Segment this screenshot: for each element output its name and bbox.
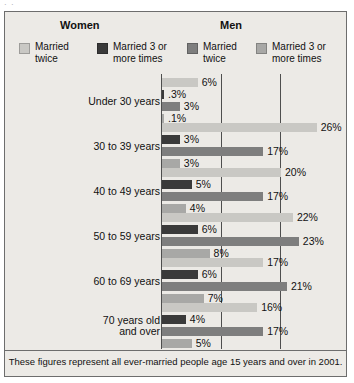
chart-bar-row: 4% <box>162 315 345 324</box>
chart-bar-value-label: 17% <box>267 190 288 202</box>
legend-group-title-men: Men <box>220 19 242 31</box>
legend-swatch-icon <box>19 43 30 54</box>
chart-footnote: These figures represent all ever-married… <box>5 356 346 368</box>
chart-bar-value-label: 22% <box>297 211 318 223</box>
chart-bar[interactable] <box>162 327 263 336</box>
chart-bar-value-label: 5% <box>196 337 211 349</box>
chart-age-group: 40 to 49 years20%5%17%4% <box>5 168 346 213</box>
chart-bar-value-label: 3% <box>184 133 199 145</box>
chart-bar[interactable] <box>162 213 293 222</box>
chart-bar-row: 17% <box>162 192 345 201</box>
chart-bar-row: 3% <box>162 135 345 144</box>
chart-category-label: 50 to 59 years <box>93 231 160 242</box>
chart-bar[interactable] <box>162 180 192 189</box>
legend-item-label: Married twice <box>35 41 69 64</box>
footnote-divider <box>5 350 346 351</box>
legend-swatch-icon <box>187 43 198 54</box>
chart-bar-row: 17% <box>162 327 345 336</box>
chart-bar-row: 7% <box>162 294 345 303</box>
legend-swatch-icon <box>97 43 108 54</box>
chart-category-label: 60 to 69 years <box>93 276 160 287</box>
legend-item-men-married-3-or-more[interactable]: Married 3 or more times <box>256 41 326 64</box>
chart-bar-row: 21% <box>162 282 345 291</box>
chart-bar-value-label: 17% <box>267 325 288 337</box>
chart-bar-row: 3% <box>162 159 345 168</box>
chart-bar-row: 26% <box>162 123 345 132</box>
chart-bar-row: 5% <box>162 339 345 348</box>
chart-bar-value-label: 6% <box>202 76 217 88</box>
chart-bar-row: 16% <box>162 303 345 312</box>
chart-bar[interactable] <box>162 225 198 234</box>
chart-bar-value-label: 17% <box>267 256 288 268</box>
chart-bar[interactable] <box>162 159 180 168</box>
chart-category-label: 40 to 49 years <box>93 186 160 197</box>
chart-bar[interactable] <box>162 123 317 132</box>
chart-bar-row: 6% <box>162 225 345 234</box>
legend-item-men-married-twice[interactable]: Married twice <box>187 41 237 64</box>
chart-bar[interactable] <box>162 102 180 111</box>
chart-age-group: 50 to 59 years22%6%23%8% <box>5 213 346 258</box>
chart-bar[interactable] <box>162 294 204 303</box>
chart-bar-value-label: 20% <box>285 166 306 178</box>
legend-item-label: Married twice <box>203 41 237 64</box>
chart-bar-value-label: 5% <box>196 178 211 190</box>
chart-bar[interactable] <box>162 282 287 291</box>
chart-bar-value-label: 4% <box>190 313 205 325</box>
chart-category-label: Under 30 years <box>88 96 160 107</box>
chart-bar[interactable] <box>162 258 263 267</box>
chart-age-group: 60 to 69 years17%6%21%7% <box>5 258 346 303</box>
chart-bar[interactable] <box>162 78 198 87</box>
chart-bar-value-label: 16% <box>261 301 282 313</box>
chart-bar-value-label: 26% <box>321 121 342 133</box>
chart-bar-value-label: 17% <box>267 145 288 157</box>
chart-category-label: 70 years old and over <box>103 315 160 337</box>
legend-item-label: Married 3 or more times <box>272 41 326 64</box>
chart-bar[interactable] <box>162 249 210 258</box>
figure-page: · · Women Men Married twice Married 3 or… <box>0 0 354 383</box>
chart-bar[interactable] <box>162 204 186 213</box>
chart-bar[interactable] <box>162 192 263 201</box>
chart-bar[interactable] <box>162 135 180 144</box>
page-artifact-text: · · <box>4 0 44 9</box>
chart-bar-value-label: 23% <box>303 235 324 247</box>
chart-age-group: 30 to 39 years26%3%17%3% <box>5 123 346 168</box>
chart-bar-row: 6% <box>162 270 345 279</box>
chart-plot-area: Under 30 years6%.3%3%.1%30 to 39 years26… <box>5 74 346 349</box>
chart-bar-row: 22% <box>162 213 345 222</box>
legend-item-label: Married 3 or more times <box>113 41 167 64</box>
chart-bar-value-label: 3% <box>184 100 199 112</box>
chart-bar-row: 20% <box>162 168 345 177</box>
chart-bar-value-label: 21% <box>291 280 312 292</box>
chart-bar-row: .3% <box>162 90 345 99</box>
chart-figure: Women Men Married twice Married 3 or mor… <box>4 11 347 377</box>
chart-bar-row: 3% <box>162 102 345 111</box>
legend-item-women-married-3-or-more[interactable]: Married 3 or more times <box>97 41 167 64</box>
legend-item-women-married-twice[interactable]: Married twice <box>19 41 69 64</box>
chart-bar[interactable] <box>162 237 299 246</box>
chart-bar-row: 6% <box>162 78 345 87</box>
chart-bar-row: 23% <box>162 237 345 246</box>
chart-bar-row: 5% <box>162 180 345 189</box>
chart-bar-value-label: 6% <box>202 268 217 280</box>
chart-bar[interactable] <box>162 339 192 348</box>
chart-bar-row: 17% <box>162 258 345 267</box>
chart-category-label: 30 to 39 years <box>93 141 160 152</box>
chart-bar[interactable] <box>162 270 198 279</box>
chart-bar-row: 17% <box>162 147 345 156</box>
chart-bar-row: 8% <box>162 249 345 258</box>
chart-bar-value-label: 6% <box>202 223 217 235</box>
chart-bar-value-label: .3% <box>168 88 186 100</box>
chart-bar[interactable] <box>162 90 164 99</box>
chart-age-group: 70 years old and over16%4%17%5% <box>5 303 346 348</box>
chart-bar[interactable] <box>162 168 281 177</box>
chart-bar-row: .1% <box>162 114 345 123</box>
chart-legend: Women Men Married twice Married 3 or mor… <box>5 12 346 74</box>
legend-swatch-icon <box>256 43 267 54</box>
chart-bar[interactable] <box>162 147 263 156</box>
legend-group-title-women: Women <box>60 19 100 31</box>
chart-age-group: Under 30 years6%.3%3%.1% <box>5 78 346 123</box>
chart-bar[interactable] <box>162 114 164 123</box>
chart-bar[interactable] <box>162 315 186 324</box>
chart-bar[interactable] <box>162 303 257 312</box>
